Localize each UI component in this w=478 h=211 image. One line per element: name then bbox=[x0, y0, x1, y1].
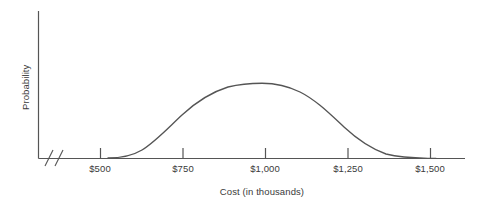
y-axis-title-text: Probability bbox=[20, 65, 31, 110]
x-tick-label-1000: $1,000 bbox=[250, 163, 280, 174]
x-axis-title: Cost (in thousands) bbox=[220, 186, 304, 197]
x-axis-ticks bbox=[101, 148, 431, 159]
x-tick-label-750: $750 bbox=[172, 163, 194, 174]
x-tick-label-500: $500 bbox=[89, 163, 111, 174]
chart-canvas bbox=[0, 0, 478, 211]
probability-cost-chart: $500 $750 $1,000 $1,250 $1,500 Cost (in … bbox=[0, 0, 478, 211]
probability-curve bbox=[108, 83, 436, 158]
x-tick-label-1250: $1,250 bbox=[333, 163, 363, 174]
x-tick-label-1500: $1,500 bbox=[415, 163, 445, 174]
